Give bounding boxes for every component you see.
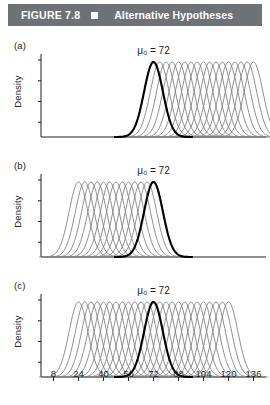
- x-tick-label: 136: [246, 368, 262, 379]
- x-tick-label: 8: [51, 368, 56, 379]
- panel-a-plot: μ₀ = 72: [0, 34, 270, 154]
- null-hypothesis-annotation: μ₀ = 72: [137, 165, 170, 176]
- null-hypothesis-annotation: μ₀ = 72: [137, 45, 170, 56]
- x-tick-label: 120: [221, 368, 237, 379]
- panel-b-plot: μ₀ = 72: [0, 154, 270, 274]
- figure-title: Alternative Hypotheses: [114, 9, 233, 21]
- x-tick-label: 24: [73, 368, 84, 379]
- x-tick-label: 56: [123, 368, 134, 379]
- x-tick-label: 88: [173, 368, 184, 379]
- panel-b: (b) Density μ₀ = 72: [0, 154, 270, 274]
- x-axis: 82440567288104120136: [0, 364, 270, 386]
- x-tick-label: 40: [98, 368, 109, 379]
- plot-stack: (a) Density μ₀ = 72 (b) Density μ₀ = 72 …: [0, 30, 270, 405]
- x-tick-label: 104: [196, 368, 212, 379]
- figure-header-bar: FIGURE 7.8 Alternative Hypotheses: [8, 4, 262, 26]
- x-tick-label: 72: [148, 368, 159, 379]
- panel-a: (a) Density μ₀ = 72: [0, 34, 270, 154]
- filled-square-icon: [91, 12, 98, 19]
- figure-number: FIGURE 7.8: [21, 9, 80, 21]
- null-hypothesis-annotation: μ₀ = 72: [137, 285, 170, 296]
